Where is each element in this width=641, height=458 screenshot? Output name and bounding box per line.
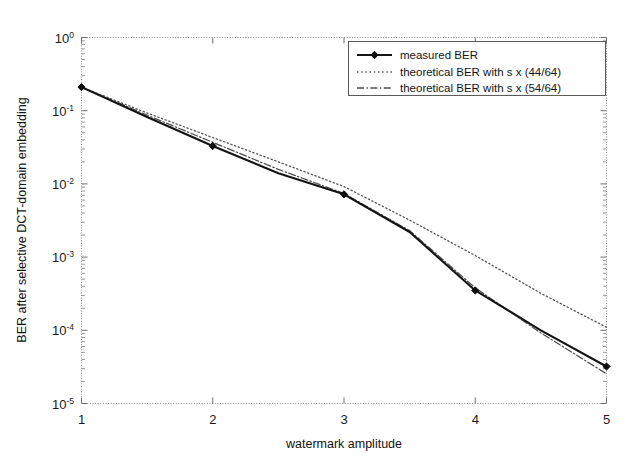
chart-svg: 10010-110-210-310-410-5 12345 watermark …	[0, 0, 641, 458]
x-tick-label: 3	[340, 412, 347, 427]
legend-label-theoretical-44-64: theoretical BER with s x (44/64)	[400, 66, 561, 78]
legend-label-theoretical-54-64: theoretical BER with s x (54/64)	[400, 82, 561, 94]
x-tick-label: 2	[209, 412, 216, 427]
x-axis-title: watermark amplitude	[285, 437, 402, 451]
x-tick-label: 5	[603, 412, 610, 427]
legend: measured BER theoretical BER with s x (4…	[349, 42, 606, 96]
x-tick-label: 1	[78, 412, 85, 427]
legend-label-measured: measured BER	[400, 49, 478, 61]
x-tick-label: 4	[472, 412, 479, 427]
y-axis-title: BER after selective DCT-domain embedding	[15, 97, 29, 342]
chart-figure: 10010-110-210-310-410-5 12345 watermark …	[0, 0, 641, 458]
